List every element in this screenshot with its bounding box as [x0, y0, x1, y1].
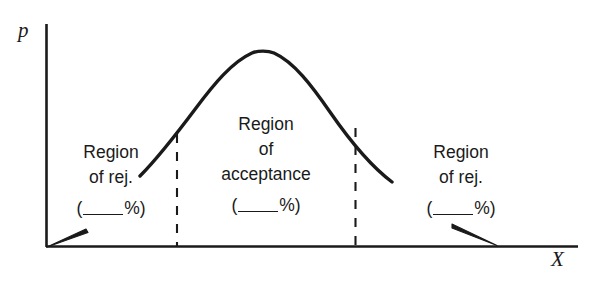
acceptance-percent-symbol: %	[279, 195, 295, 215]
left-percent-close-paren: )	[140, 198, 146, 218]
left-rejection-percent: (%)	[48, 196, 174, 221]
x-axis-label-text: X	[551, 246, 564, 270]
right-rejection-wedge-pointer	[452, 224, 497, 246]
acceptance-region-label: Region of acceptance (%)	[180, 112, 352, 217]
right-percent-open-paren: (	[426, 198, 432, 218]
left-rejection-line-1: Region	[48, 140, 174, 165]
acceptance-percent: (%)	[180, 193, 352, 218]
normal-distribution-figure: p X Region of rej. (%) Region of accepta…	[0, 0, 599, 283]
left-rejection-line-2: of rej.	[48, 165, 174, 190]
y-axis-label: p	[18, 18, 29, 43]
right-percent-symbol: %	[474, 198, 490, 218]
left-percent-open-paren: (	[76, 198, 82, 218]
left-rejection-wedge-pointer	[47, 229, 88, 247]
left-percent-blank	[83, 214, 123, 215]
acceptance-line-2: of	[180, 137, 352, 162]
left-percent-symbol: %	[124, 198, 140, 218]
right-rejection-region-label: Region of rej. (%)	[398, 140, 524, 221]
right-rejection-line-1: Region	[398, 140, 524, 165]
acceptance-line-1: Region	[180, 112, 352, 137]
right-rejection-percent: (%)	[398, 196, 524, 221]
x-axis-label: X	[551, 246, 564, 272]
acceptance-line-3: acceptance	[180, 162, 352, 187]
right-rejection-line-2: of rej.	[398, 165, 524, 190]
right-percent-close-paren: )	[490, 198, 496, 218]
left-rejection-region-label: Region of rej. (%)	[48, 140, 174, 221]
acceptance-percent-close-paren: )	[295, 195, 301, 215]
acceptance-percent-open-paren: (	[231, 195, 237, 215]
right-percent-blank	[433, 214, 473, 215]
acceptance-percent-blank	[238, 211, 278, 212]
